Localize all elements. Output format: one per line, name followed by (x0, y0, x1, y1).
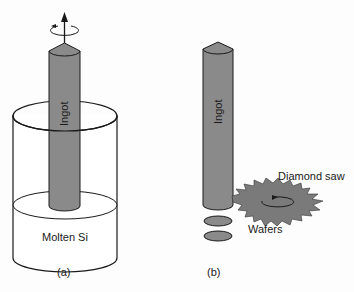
wafer-2 (204, 231, 232, 241)
caption-a: (a) (57, 266, 70, 278)
rotation-arrow-icon (51, 12, 79, 43)
figure-czochralski-wafer: Ingot Molten Si (a) Ingot Diamond saw Wa… (0, 0, 354, 292)
caption-b: (b) (207, 266, 220, 278)
molten-si-label: Molten Si (42, 231, 88, 243)
ingot-label-a: Ingot (58, 102, 70, 126)
wafer-1 (204, 216, 232, 226)
ingot-label-b: Ingot (212, 100, 224, 124)
diamond-saw-label: Diamond saw (278, 170, 345, 182)
diamond-saw (232, 178, 323, 226)
ingot-b (203, 42, 233, 210)
panel-b: Ingot Diamond saw Wafers (b) (203, 42, 345, 278)
wafers-label: Wafers (248, 223, 283, 235)
panel-a: Ingot Molten Si (a) (13, 12, 117, 278)
